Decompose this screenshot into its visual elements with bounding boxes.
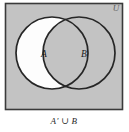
universal-set-label: U (113, 3, 120, 13)
set-a-label: A (40, 49, 47, 59)
venn-diagram-figure: A B U A′ ∪ B (0, 0, 129, 132)
venn-diagram-canvas: A B U A′ ∪ B (0, 0, 129, 132)
figure-caption: A′ ∪ B (50, 116, 78, 126)
set-b-label: B (81, 49, 87, 59)
